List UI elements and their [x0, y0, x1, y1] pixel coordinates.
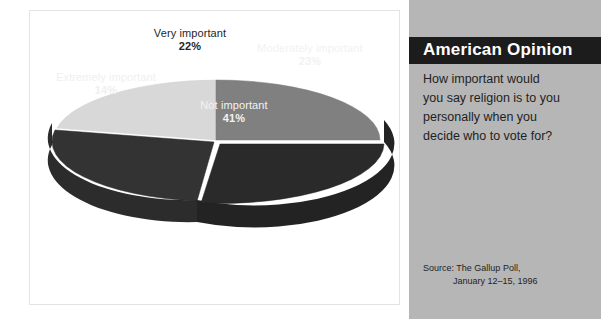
pie-top-face: [52, 80, 384, 203]
sidebar-title: American Opinion: [423, 40, 573, 60]
poll-question: How important would you say religion is …: [423, 70, 595, 146]
pie-chart: Very important 22% Moderately important …: [30, 11, 401, 306]
poll-question-line-4: decide who to vote for?: [423, 127, 595, 146]
sidebar-panel: American Opinion How important would you…: [409, 0, 601, 319]
sidebar-header-bar: American Opinion: [409, 37, 601, 64]
infographic-page: Very important 22% Moderately important …: [0, 0, 615, 319]
pie-slice-moderately-important: [216, 80, 380, 140]
poll-question-line-2: you say religion is to you: [423, 89, 595, 108]
chart-panel: Very important 22% Moderately important …: [29, 10, 400, 305]
pie-slice-very-important: [57, 80, 216, 140]
source-line-1: Source: The Gallup Poll,: [423, 262, 599, 275]
source-line-2: January 12–15, 1996: [423, 275, 599, 288]
poll-question-line-3: personally when you: [423, 108, 595, 127]
source-attribution: Source: The Gallup Poll, January 12–15, …: [423, 262, 599, 287]
pie-chart-svg: [30, 11, 401, 306]
poll-question-line-1: How important would: [423, 70, 595, 89]
